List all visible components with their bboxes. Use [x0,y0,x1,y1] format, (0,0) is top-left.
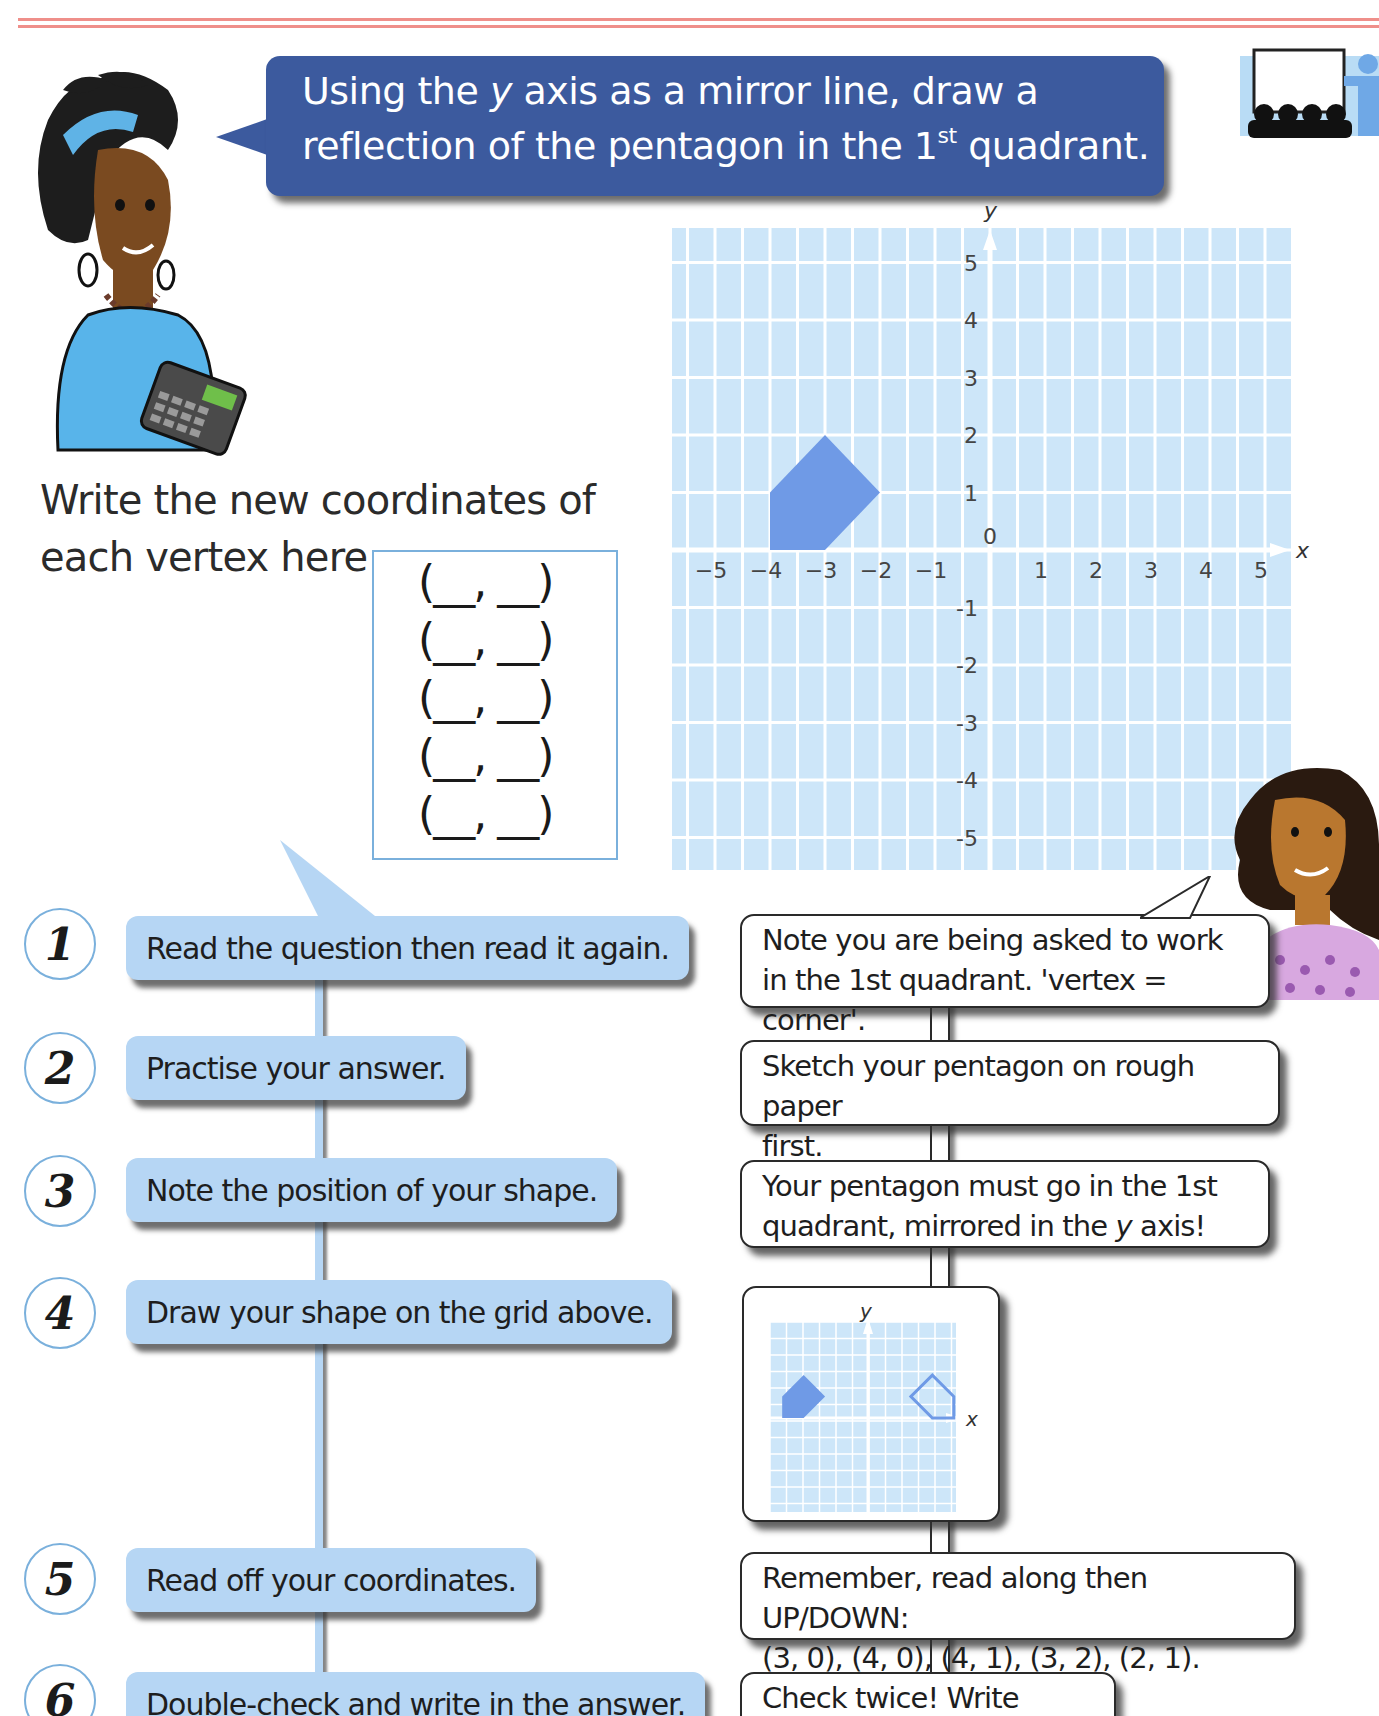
svg-text:4: 4 [1199,558,1213,583]
question-line-2: reflection of the pentagon in the 1st qu… [302,119,1164,174]
presentation-icon [1240,46,1379,142]
answer-row[interactable]: (__, __) [418,788,552,839]
svg-text:−5: −5 [695,558,727,583]
answer-row[interactable]: (__, __) [418,556,552,607]
svg-text:1: 1 [1034,558,1048,583]
tip-2: Sketch your pentagon on rough paper firs… [740,1040,1280,1126]
svg-text:x: x [965,1407,978,1431]
step-number-1: 1 [24,908,96,980]
step-5: Read off your coordinates. [126,1548,536,1612]
header-rule [18,18,1379,30]
step-3: Note the position of your shape. [126,1158,617,1222]
step-number-4: 4 [24,1277,96,1349]
step-number-3: 3 [24,1155,96,1227]
step-number-2: 2 [24,1032,96,1104]
tip-1: Note you are being asked to work in the … [740,914,1270,1008]
svg-text:5: 5 [964,251,978,276]
step-number-5: 5 [24,1543,96,1615]
svg-text:-5: -5 [956,826,978,851]
step-6: Double-check and write in the answer. [126,1672,705,1716]
svg-text:2: 2 [964,423,978,448]
tip-5: Remember, read along then UP/DOWN: (3, 0… [740,1552,1296,1640]
answer-row[interactable]: (__, __) [418,672,552,723]
step-2: Practise your answer. [126,1036,466,1100]
svg-text:y: y [859,1299,873,1323]
svg-text:4: 4 [964,308,978,333]
pointer-tail [280,840,400,920]
answer-row[interactable]: (__, __) [418,730,552,781]
y-axis-label: y [984,198,997,223]
svg-text:1: 1 [964,481,978,506]
question-line-1: Using the y axis as a mirror line, draw … [302,64,1164,119]
tips-connector [930,1246,950,1290]
tip-6: Check twice! Write once! [740,1672,1116,1716]
svg-text:-4: -4 [956,768,978,793]
svg-text:-2: -2 [956,653,978,678]
tip-1-tail [1140,876,1220,924]
prompt-line-1: Write the new coordinates of [40,472,600,529]
svg-text:-3: -3 [956,711,978,736]
svg-text:−4: −4 [750,558,782,583]
question-bubble: Using the y axis as a mirror line, draw … [266,56,1164,196]
mini-grid-example: yx [742,1286,1000,1522]
svg-text:3: 3 [964,366,978,391]
svg-text:3: 3 [1144,558,1158,583]
svg-text:−2: −2 [860,558,892,583]
speech-bubble-tail [216,118,270,156]
answer-box[interactable]: (__, __) (__, __) (__, __) (__, __) (__,… [372,550,618,860]
x-axis-label: x [1296,538,1309,563]
answer-row[interactable]: (__, __) [418,614,552,665]
tip-3: Your pentagon must go in the 1st quadran… [740,1160,1270,1248]
svg-text:5: 5 [1254,558,1268,583]
svg-text:0: 0 [983,524,997,549]
svg-text:−1: −1 [915,558,947,583]
step-number-6: 6 [24,1664,96,1716]
svg-text:−3: −3 [805,558,837,583]
svg-text:-1: -1 [956,596,978,621]
step-4: Draw your shape on the grid above. [126,1280,672,1344]
coordinate-grid[interactable]: −5−4−3−2−101234554321-1-2-3-4-5 [672,228,1294,870]
svg-text:2: 2 [1089,558,1103,583]
step-1: Read the question then read it again. [126,916,689,980]
